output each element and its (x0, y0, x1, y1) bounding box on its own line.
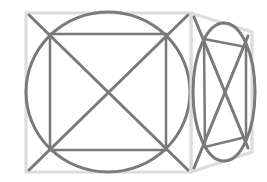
side-face (191, 13, 255, 172)
side-diagonal-1 (194, 17, 248, 148)
side-diagonal-2 (194, 36, 248, 168)
cube-diagram (0, 0, 267, 182)
cube-figure (0, 0, 267, 182)
front-face (26, 12, 191, 172)
